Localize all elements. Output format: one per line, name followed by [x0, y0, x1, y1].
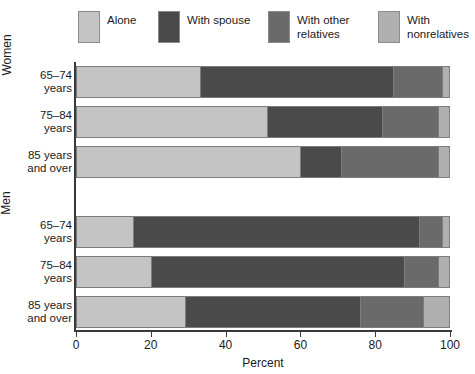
bar-segment [438, 257, 449, 287]
legend-item-with-other-relatives[interactable]: With other relatives [268, 10, 349, 43]
x-axis-tick-label: 60 [294, 338, 307, 352]
legend-swatch-with-spouse [158, 11, 180, 43]
category-label-women-85-over: 85 years and over [0, 149, 72, 175]
stacked-bar-row [76, 216, 450, 248]
stacked-bar-row [76, 66, 450, 98]
x-axis-tick-label: 20 [144, 338, 157, 352]
bar-segment [360, 297, 423, 327]
bar-segment [77, 107, 267, 137]
legend-swatch-with-nonrelatives [378, 11, 400, 43]
x-axis-tick-label: 100 [440, 338, 460, 352]
chart-legend: Alone With spouse With other relatives W… [0, 0, 475, 56]
group-label-women: Women [0, 34, 14, 75]
bar-segment [77, 67, 200, 97]
bar-segment [438, 147, 449, 177]
bar-segment [438, 107, 449, 137]
bar-segment [419, 217, 441, 247]
legend-swatch-with-other-relatives [268, 11, 290, 43]
legend-item-with-spouse[interactable]: With spouse [158, 10, 250, 43]
bar-segment [300, 147, 341, 177]
bar-segment [77, 297, 185, 327]
category-label-women-75-84: 75–84 years [0, 109, 72, 135]
x-axis-tick-label: 40 [219, 338, 232, 352]
x-axis-tick [76, 332, 77, 337]
bar-segment [404, 257, 437, 287]
bar-segment [77, 147, 300, 177]
legend-item-with-nonrelatives[interactable]: With nonrelatives [378, 10, 469, 43]
legend-label-alone: Alone [107, 10, 136, 28]
bar-segment [77, 217, 133, 247]
x-axis-title: Percent [242, 356, 283, 370]
bar-segment [151, 257, 404, 287]
legend-label-with-spouse: With spouse [187, 10, 250, 28]
bar-segment [77, 257, 151, 287]
x-axis-tick-label: 80 [369, 338, 382, 352]
x-axis-tick [226, 332, 227, 337]
stacked-bar-row [76, 256, 450, 288]
category-label-men-65-74: 65–74 years [0, 219, 72, 245]
category-label-men-85-over: 85 years and over [0, 299, 72, 325]
bar-segment [442, 217, 449, 247]
x-axis-tick-label: 0 [73, 338, 80, 352]
bar-segment [442, 67, 449, 97]
legend-item-alone[interactable]: Alone [78, 10, 136, 43]
x-axis-tick [450, 332, 451, 337]
bar-segment [341, 147, 438, 177]
stacked-bar-row [76, 296, 450, 328]
x-axis-tick [375, 332, 376, 337]
x-axis-line [74, 330, 452, 332]
plot-area: 020406080100 Percent [76, 62, 450, 330]
bar-segment [185, 297, 360, 327]
x-axis-tick [300, 332, 301, 337]
stacked-bar-row [76, 106, 450, 138]
bar-segment [200, 67, 393, 97]
bar-segment [423, 297, 449, 327]
bar-segment [133, 217, 419, 247]
group-label-men: Men [0, 191, 13, 214]
legend-swatch-alone [78, 11, 100, 43]
bar-segment [393, 67, 441, 97]
x-axis-tick [151, 332, 152, 337]
legend-label-with-other-relatives: With other relatives [297, 10, 349, 41]
category-label-men-75-84: 75–84 years [0, 259, 72, 285]
y-axis-line [74, 62, 76, 330]
bar-segment [382, 107, 438, 137]
legend-label-with-nonrelatives: With nonrelatives [407, 10, 469, 41]
stacked-bar-row [76, 146, 450, 178]
stacked-bar-chart: Alone With spouse With other relatives W… [0, 0, 475, 374]
bar-segment [267, 107, 382, 137]
